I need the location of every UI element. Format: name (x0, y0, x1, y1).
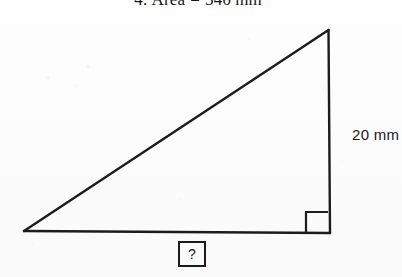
right-angle-marker-icon (306, 212, 328, 233)
triangle-base-leg (24, 231, 330, 233)
triangle-figure (0, 0, 402, 277)
vertical-side-label: 20 mm (352, 126, 399, 143)
question-mark-label: ? (188, 247, 196, 261)
worksheet-page: 4.Area=540mm2 20 mm ? (0, 0, 402, 277)
triangle-hypotenuse (24, 30, 329, 231)
triangle-vertical-leg (329, 30, 331, 233)
unknown-base-answer-box[interactable]: ? (178, 241, 206, 267)
